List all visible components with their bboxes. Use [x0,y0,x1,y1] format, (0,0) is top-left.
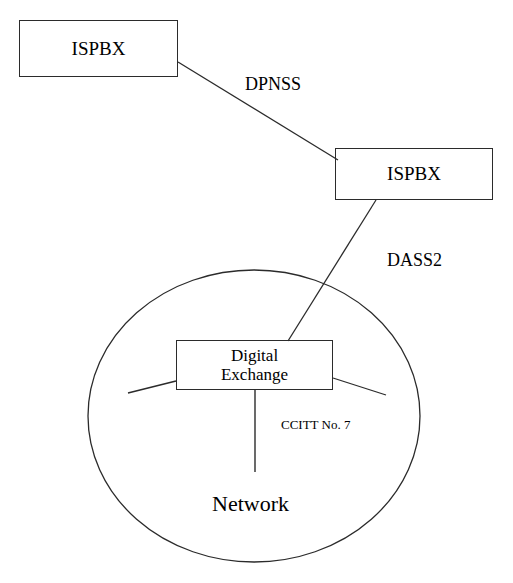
edge-label-ccitt: CCITT No. 7 [281,417,350,433]
network-diagram: ISPBX ISPBX Digital Exchange DPNSS DASS2… [0,0,513,583]
dass2-link-line [288,200,376,341]
node-digital-exchange: Digital Exchange [176,340,333,390]
node-network-label: Network [212,491,289,517]
node-ispbx-2-label: ISPBX [387,163,441,184]
edge-label-dass2: DASS2 [387,250,442,271]
node-ispbx-1: ISPBX [19,20,178,77]
exchange-left-trunk-line [128,381,176,393]
node-ispbx-1-label: ISPBX [72,38,126,59]
network-circle [88,270,420,562]
exchange-right-trunk-line [333,378,386,395]
node-ispbx-2: ISPBX [335,148,493,200]
edge-label-dpnss: DPNSS [245,74,301,95]
node-digital-exchange-label: Digital Exchange [221,346,288,384]
